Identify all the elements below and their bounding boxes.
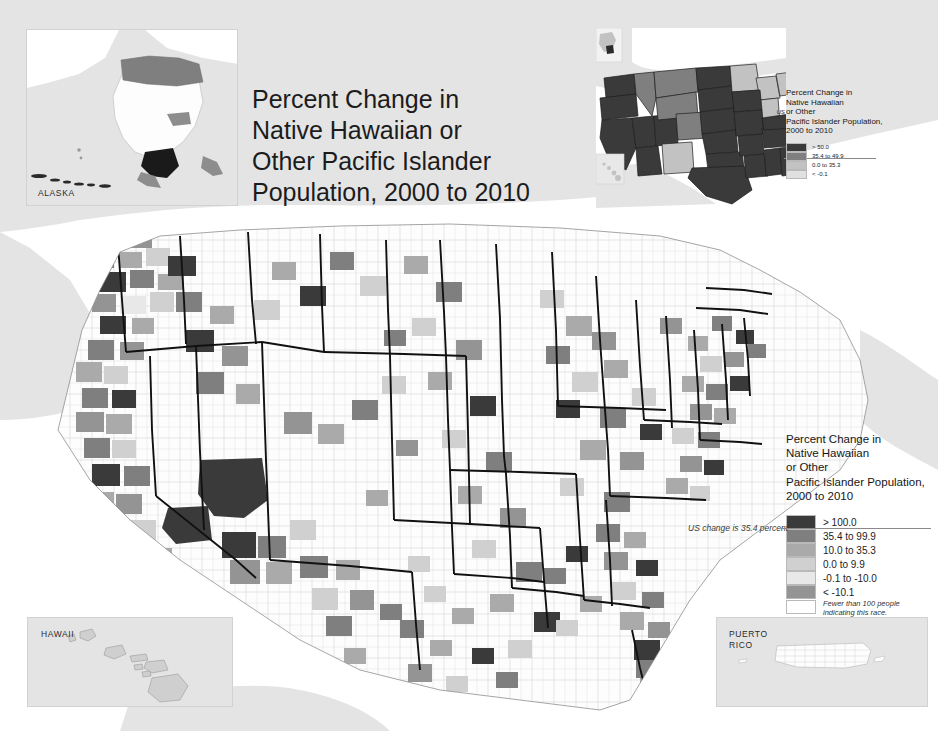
main-legend-item: < -10.1	[786, 585, 936, 599]
island-lanai	[134, 664, 143, 670]
main-legend-label: -0.1 to -10.0	[823, 573, 877, 584]
inset-legend-label: > 50.0	[812, 144, 829, 150]
puerto-rico-inset-label: PUERTO RICO	[729, 629, 768, 651]
main-legend-title: Percent Change in Native Hawaiian or Oth…	[786, 432, 936, 503]
main-legend-label: 10.0 to 35.3	[823, 545, 876, 556]
main-legend-swatch-nodata	[786, 600, 816, 614]
inset-legend: Percent Change in Native Hawaiian or Oth…	[786, 88, 936, 179]
hawaii-inset-label: HAWAII	[41, 629, 74, 640]
inset-legend-swatch	[786, 161, 807, 170]
main-legend-item: 35.4 to 99.9	[786, 529, 936, 543]
inset-legend-label: 0.0 to 35.3	[812, 162, 840, 168]
main-legend-swatch	[786, 515, 816, 529]
main-legend: Percent Change in Native Hawaiian or Oth…	[786, 432, 936, 617]
inset-legend-label: 35.4 to 49.9	[812, 153, 844, 159]
main-legend-label: 0.0 to 9.9	[823, 559, 865, 570]
inset-us-change-note: US change is 35.4 percent	[753, 108, 785, 138]
state-MS	[764, 148, 782, 176]
state-AZ	[636, 146, 662, 176]
main-legend-swatch	[786, 585, 816, 599]
state-OR	[600, 94, 638, 120]
inset-legend-item: > 50.0	[786, 143, 936, 152]
main-legend-label: > 100.0	[823, 517, 857, 528]
alaska-inset-svg	[27, 30, 238, 206]
main-legend-label: 35.4 to 99.9	[823, 531, 876, 542]
page-title: Percent Change in Native Hawaiian or Oth…	[252, 84, 552, 208]
main-legend-label: < -10.1	[823, 587, 854, 598]
main-legend-item-nodata: Fewer than 100 people indicating this ra…	[786, 600, 936, 617]
state-SD	[698, 86, 734, 112]
alaska-inset-panel	[26, 29, 238, 206]
main-legend-note: Fewer than 100 people indicating this ra…	[823, 600, 900, 617]
main-legend-swatch	[786, 529, 816, 543]
main-legend-rows: > 100.0 35.4 to 99.9 10.0 to 35.3 0.0 to…	[786, 515, 936, 617]
state-NM	[662, 142, 694, 174]
inset-legend-item: 0.0 to 35.3	[786, 161, 936, 170]
inset-legend-label: < -0.1	[812, 171, 828, 177]
main-legend-item: 10.0 to 35.3	[786, 543, 936, 557]
main-leader-line	[781, 528, 931, 529]
puerto-rico-mainland	[775, 643, 871, 668]
main-legend-swatch	[786, 571, 816, 585]
state-KS	[702, 130, 738, 154]
main-legend-item: > 100.0	[786, 515, 936, 529]
state-NV	[632, 116, 656, 148]
inset-legend-title: Percent Change in Native Hawaiian or Oth…	[786, 88, 936, 136]
main-legend-item: -0.1 to -10.0	[786, 571, 936, 585]
inset-legend-swatch	[786, 143, 807, 152]
inset-legend-item: < -0.1	[786, 170, 936, 179]
inset-alaska-dark	[606, 45, 614, 54]
alaska-inset-label: ALASKA	[38, 188, 75, 199]
inset-legend-swatch	[786, 170, 807, 179]
inset-legend-rows: > 50.0 35.4 to 49.9 0.0 to 35.3 < -0.1	[786, 143, 936, 179]
main-legend-item: 0.0 to 9.9	[786, 557, 936, 571]
state-NE	[700, 108, 736, 134]
island-kahoolawe	[142, 671, 151, 677]
main-legend-swatch	[786, 543, 816, 557]
inset-legend-item: 35.4 to 49.9	[786, 152, 936, 161]
main-us-change-note: US change is 35.4 percent	[688, 523, 788, 533]
inset-legend-swatch	[786, 152, 807, 161]
state-MN	[730, 64, 760, 92]
main-legend-swatch	[786, 557, 816, 571]
